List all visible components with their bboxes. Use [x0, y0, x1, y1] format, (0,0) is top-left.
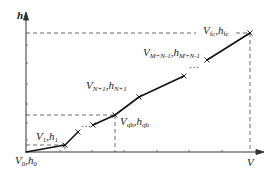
curve — [26, 33, 250, 152]
segment-N1-c — [139, 76, 184, 97]
label-vfc-hfc: Vfc,hfc — [201, 25, 231, 38]
label-vn1-hn1: VN+1,hN+1 — [86, 80, 127, 93]
x-axis-arrow-icon — [256, 150, 264, 155]
ellipsis-upper: … — [189, 60, 199, 70]
segment-qh-N1 — [115, 97, 139, 115]
segment-0-1 — [26, 145, 65, 152]
y-axis-label: h — [17, 10, 23, 21]
label-v1-h1: V1,h1 — [36, 131, 58, 144]
marker-x-icon — [76, 130, 81, 135]
y-axis-arrow-icon — [24, 12, 29, 20]
segment-b-qh — [93, 115, 115, 125]
x-axis-label: V — [247, 157, 254, 168]
label-v0-h0: V0,h0 — [15, 155, 37, 168]
ellipsis-lower: … — [81, 119, 91, 129]
label-vqh-hqh: Vqh,hqh — [120, 116, 149, 129]
marker-x-icon — [205, 58, 210, 63]
piecewise-curve-diagram: h V V0,h0 V1,h1 Vqh,hqh VN+1,hN+1 VM+N-1… — [0, 0, 277, 178]
diagram-canvas — [0, 0, 277, 178]
guide-lines — [26, 33, 250, 152]
